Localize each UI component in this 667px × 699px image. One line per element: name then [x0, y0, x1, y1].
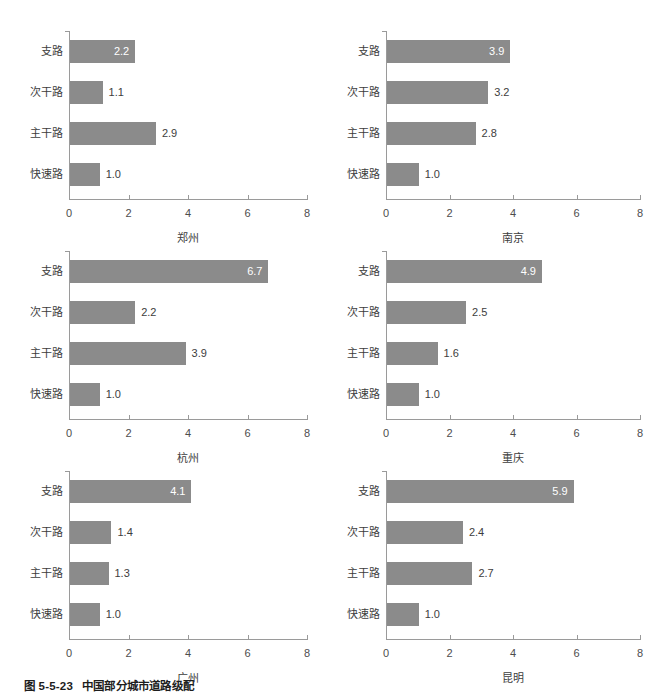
- bar-value-label: 1.4: [117, 521, 132, 544]
- bar: [387, 301, 466, 324]
- bar-series: 支路6.7次干路2.2主干路3.9快速路1.0: [70, 256, 307, 419]
- x-axis-tick-label: 6: [244, 427, 250, 439]
- x-axis-tick-label: 4: [185, 207, 191, 219]
- x-axis-tick-label: 2: [125, 647, 131, 659]
- category-label: 支路: [41, 40, 63, 63]
- bar-value-label: 1.0: [106, 383, 121, 406]
- category-label: 主干路: [347, 562, 380, 585]
- bar: [70, 122, 156, 145]
- x-axis-tick-label: 2: [446, 647, 452, 659]
- x-axis-tick-label: 8: [637, 207, 643, 219]
- bar: [387, 163, 419, 186]
- bar: [70, 301, 135, 324]
- x-axis-tick-label: 4: [510, 207, 516, 219]
- x-axis-tick-label: 4: [510, 647, 516, 659]
- bar-series: 支路2.2次干路1.1主干路2.9快速路1.0: [70, 36, 307, 199]
- bar-row: 支路2.2: [70, 40, 307, 63]
- bar: [387, 521, 463, 544]
- x-axis-tick-label: 2: [125, 427, 131, 439]
- bar-row: 支路4.1: [70, 480, 307, 503]
- bar-value-label: 1.6: [444, 342, 459, 365]
- x-axis-tick: [640, 635, 641, 640]
- x-axis-tick-label: 6: [244, 647, 250, 659]
- bar: [70, 521, 111, 544]
- chart-panel: 02468支路6.7次干路2.2主干路3.9快速路1.0杭州: [0, 234, 333, 454]
- bar-row: 支路6.7: [70, 260, 307, 283]
- bar-series: 支路3.9次干路3.2主干路2.8快速路1.0: [387, 36, 640, 199]
- bar-row: 主干路2.9: [70, 122, 307, 145]
- x-axis-tick-label: 6: [244, 207, 250, 219]
- bar-series: 支路4.1次干路1.4主干路1.3快速路1.0: [70, 476, 307, 639]
- category-label: 支路: [358, 480, 380, 503]
- chart-panel-grid: 02468支路2.2次干路1.1主干路2.9快速路1.0郑州02468支路3.9…: [0, 14, 667, 674]
- bar: [70, 342, 186, 365]
- bar-row: 快速路1.0: [70, 163, 307, 186]
- x-axis-tick: [640, 415, 641, 420]
- bar-row: 支路3.9: [387, 40, 640, 63]
- y-axis-top-tick: [382, 31, 387, 32]
- bar-row: 快速路1.0: [70, 383, 307, 406]
- bar-row: 次干路2.5: [387, 301, 640, 324]
- bar-value-label: 2.2: [141, 301, 156, 324]
- bar-row: 主干路2.7: [387, 562, 640, 585]
- y-axis-top-tick: [382, 251, 387, 252]
- x-axis-tick: [640, 195, 641, 200]
- category-label: 次干路: [347, 521, 380, 544]
- bar: [387, 81, 488, 104]
- x-axis-tick-label: 0: [383, 647, 389, 659]
- category-label: 快速路: [30, 603, 63, 626]
- category-label: 支路: [358, 260, 380, 283]
- plot-area: 02468支路2.2次干路1.1主干路2.9快速路1.0郑州: [69, 36, 307, 200]
- plot-area: 02468支路3.9次干路3.2主干路2.8快速路1.0南京: [386, 36, 640, 200]
- bar-value-label: 2.9: [162, 122, 177, 145]
- category-label: 快速路: [30, 383, 63, 406]
- bar-row: 主干路2.8: [387, 122, 640, 145]
- x-axis-tick: [307, 635, 308, 640]
- figure-container: 02468支路2.2次干路1.1主干路2.9快速路1.0郑州02468支路3.9…: [0, 0, 667, 699]
- bar-row: 快速路1.0: [387, 383, 640, 406]
- bar-row: 快速路1.0: [387, 163, 640, 186]
- category-label: 支路: [41, 260, 63, 283]
- bar: [387, 562, 472, 585]
- category-label: 主干路: [30, 562, 63, 585]
- bar-row: 支路4.9: [387, 260, 640, 283]
- bar-row: 支路5.9: [387, 480, 640, 503]
- x-axis-tick-label: 2: [125, 207, 131, 219]
- x-axis-tick-label: 8: [304, 427, 310, 439]
- x-axis-tick-label: 4: [185, 427, 191, 439]
- y-axis-top-tick: [65, 471, 70, 472]
- bar-row: 次干路1.1: [70, 81, 307, 104]
- bar-value-label: 5.9: [387, 480, 574, 503]
- x-axis-tick-label: 4: [185, 647, 191, 659]
- chart-panel: 02468支路4.9次干路2.5主干路1.6快速路1.0重庆: [333, 234, 667, 454]
- x-axis-tick: [307, 195, 308, 200]
- category-label: 主干路: [30, 122, 63, 145]
- bar-value-label: 2.7: [478, 562, 493, 585]
- bar: [70, 603, 100, 626]
- category-label: 主干路: [347, 122, 380, 145]
- chart-panel: 02468支路2.2次干路1.1主干路2.9快速路1.0郑州: [0, 14, 333, 234]
- x-axis-tick-label: 0: [383, 427, 389, 439]
- bar-row: 主干路1.3: [70, 562, 307, 585]
- x-axis-tick-label: 6: [573, 647, 579, 659]
- plot-area: 02468支路6.7次干路2.2主干路3.9快速路1.0杭州: [69, 256, 307, 420]
- bar: [70, 562, 109, 585]
- bar: [387, 122, 476, 145]
- category-label: 快速路: [347, 163, 380, 186]
- bar-value-label: 2.5: [472, 301, 487, 324]
- chart-panel: 02468支路4.1次干路1.4主干路1.3快速路1.0广州: [0, 454, 333, 674]
- x-axis-tick-label: 0: [66, 427, 72, 439]
- bar-value-label: 6.7: [70, 260, 268, 283]
- category-label: 次干路: [347, 301, 380, 324]
- x-axis-tick-label: 0: [66, 207, 72, 219]
- bar-value-label: 3.9: [387, 40, 510, 63]
- bar-value-label: 1.3: [115, 562, 130, 585]
- x-axis-tick-label: 0: [383, 207, 389, 219]
- category-label: 次干路: [347, 81, 380, 104]
- y-axis-top-tick: [382, 471, 387, 472]
- x-axis-tick-label: 8: [637, 647, 643, 659]
- bar-value-label: 1.0: [425, 163, 440, 186]
- bar-value-label: 1.0: [106, 163, 121, 186]
- bar: [70, 163, 100, 186]
- x-axis-tick: [307, 415, 308, 420]
